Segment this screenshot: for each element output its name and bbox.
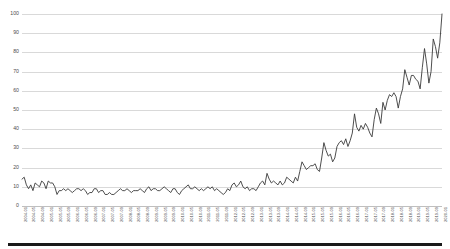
x-tick-label: 2006-01 (76, 207, 80, 222)
series-line-primary (22, 14, 442, 194)
chart-screenshot: 0102030405060708090100 2004-012004-05200… (0, 0, 450, 249)
x-tick-label: 2015-05 (321, 207, 325, 222)
x-tick-label: 2016-05 (347, 207, 351, 222)
x-tick-label: 2014-01 (286, 207, 290, 222)
x-tick-label: 2019-09 (435, 207, 439, 222)
x-tick-label: 2005-09 (67, 207, 71, 222)
x-tick-label: 2005-05 (59, 207, 63, 222)
y-tick-label: 60 (13, 88, 19, 93)
x-tick-label: 2011-05 (216, 207, 220, 222)
y-axis-labels: 0102030405060708090100 (0, 14, 22, 206)
x-tick-label: 2015-09 (330, 207, 334, 222)
x-tick-label: 2005-01 (50, 207, 54, 222)
x-tick-label: 2016-09 (356, 207, 360, 222)
line-chart-svg (22, 14, 442, 206)
x-tick-label: 2004-09 (41, 207, 45, 222)
x-tick-label: 2006-09 (94, 207, 98, 222)
x-tick-label: 2012-01 (234, 207, 238, 222)
x-tick-label: 2011-09 (225, 207, 229, 222)
y-tick-label: 30 (13, 146, 19, 151)
x-tick-label: 2019-01 (417, 207, 421, 222)
x-tick-label: 2020-01 (444, 207, 448, 222)
x-tick-label: 2007-09 (120, 207, 124, 222)
y-tick-label: 70 (13, 69, 19, 74)
x-tick-label: 2013-09 (277, 207, 281, 222)
x-tick-label: 2008-01 (129, 207, 133, 222)
x-tick-label: 2008-05 (137, 207, 141, 222)
x-tick-label: 2012-05 (242, 207, 246, 222)
x-tick-label: 2010-01 (181, 207, 185, 222)
x-tick-label: 2010-09 (199, 207, 203, 222)
bottom-rule (8, 243, 442, 246)
x-tick-label: 2017-09 (382, 207, 386, 222)
x-tick-label: 2014-09 (304, 207, 308, 222)
x-tick-label: 2006-05 (85, 207, 89, 222)
x-tick-label: 2017-01 (365, 207, 369, 222)
x-tick-label: 2015-01 (312, 207, 316, 222)
y-tick-label: 40 (13, 127, 19, 132)
x-tick-label: 2011-01 (207, 207, 211, 222)
x-tick-label: 2010-05 (190, 207, 194, 222)
x-tick-label: 2008-09 (146, 207, 150, 222)
x-tick-label: 2018-05 (400, 207, 404, 222)
y-tick-label: 50 (13, 107, 19, 112)
plot-area (22, 14, 442, 206)
x-tick-label: 2004-01 (24, 207, 28, 222)
series-line-wrapper (22, 14, 442, 206)
y-tick-label: 90 (13, 31, 19, 36)
x-tick-label: 2013-01 (260, 207, 264, 222)
x-tick-label: 2014-05 (295, 207, 299, 222)
x-tick-label: 2007-01 (102, 207, 106, 222)
x-tick-label: 2013-05 (269, 207, 273, 222)
y-tick-label: 0 (16, 203, 19, 208)
x-axis-labels: 2004-012004-052004-092005-012005-052005-… (22, 207, 442, 241)
x-tick-label: 2009-01 (155, 207, 159, 222)
x-tick-label: 2012-09 (251, 207, 255, 222)
x-tick-label: 2018-01 (391, 207, 395, 222)
y-tick-label: 20 (13, 165, 19, 170)
y-tick-label: 100 (10, 11, 19, 16)
x-tick-label: 2016-01 (339, 207, 343, 222)
x-tick-label: 2009-05 (164, 207, 168, 222)
x-tick-label: 2018-09 (409, 207, 413, 222)
y-tick-label: 10 (13, 184, 19, 189)
x-tick-label: 2004-05 (32, 207, 36, 222)
x-tick-label: 2017-05 (374, 207, 378, 222)
x-tick-label: 2019-05 (426, 207, 430, 222)
x-tick-label: 2009-09 (172, 207, 176, 222)
y-tick-label: 80 (13, 50, 19, 55)
x-tick-label: 2007-05 (111, 207, 115, 222)
